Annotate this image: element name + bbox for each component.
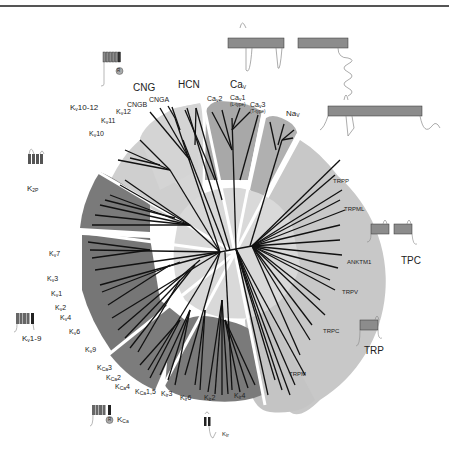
group-label-kv1-9: Kv1-9 (22, 335, 41, 343)
leaf-label-trpml: TRPML (344, 206, 364, 212)
leaf-label-trpp: TRPP (333, 178, 349, 184)
leaf-label-trpc: TRPC (323, 328, 339, 334)
topology-icon-nav (320, 95, 440, 136)
leaf-note-cav1: (L-type) (230, 103, 246, 108)
leaf-label-kca4: KCa4 (115, 383, 130, 391)
leaf-label-kca2: KCa2 (106, 374, 121, 382)
leaf-label-cav3: Cav3 (250, 101, 265, 109)
topology-icon-kir (204, 412, 216, 438)
leaf-note-cav3: (T-type) (250, 110, 266, 115)
leaf-label-kir6: Kir6 (180, 394, 191, 402)
group-label-trp: TRP (364, 346, 384, 356)
regulatory-domain-icon-kca: R (108, 418, 111, 423)
group-label-k2p: K2P (27, 185, 38, 193)
leaf-label-cav2: Cav2 (207, 95, 222, 103)
leaf-label-kv9: Kv9 (85, 346, 96, 354)
group-label-kir: Kir (222, 431, 229, 438)
leaf-label-anktm1: ANKTM1 (347, 259, 371, 265)
group-label-kv10-12: Kv10-12 (70, 104, 98, 112)
group-label-cav: CaV (230, 80, 246, 90)
leaf-label-cav1: Cav1 (230, 94, 245, 102)
leaf-label-trpm: TRPM (289, 371, 306, 377)
leaf-label-kir4: Kir4 (234, 392, 245, 400)
topology-icon-kv1-9 (14, 313, 34, 332)
leaf-label-kv7: Kv7 (49, 250, 60, 258)
group-label-hcn: HCN (178, 80, 200, 90)
group-label-nav: NaV (286, 110, 300, 118)
leaf-label-kv10: Kv10 (89, 130, 104, 138)
leaf-label-kv3: Kv3 (47, 275, 58, 283)
topology-icon-k2p (28, 149, 44, 164)
topology-icon-kca (90, 405, 113, 426)
group-label-tpc: TPC (401, 256, 421, 266)
leaf-label-cnga: CNGA (149, 96, 169, 103)
leaf-label-kv6: Kv6 (69, 328, 80, 336)
leaf-label-kca15: KCa1,5 (135, 388, 156, 396)
leaf-label-kir3: Kir3 (161, 390, 172, 398)
regulatory-domain-icon-kv10-12: R (117, 69, 120, 74)
leaf-label-kir2: Kir2 (204, 394, 215, 402)
group-label-cng: CNG (133, 83, 155, 93)
leaf-label-kv4: Kv4 (60, 314, 71, 322)
leaf-label-trpv: TRPV (342, 289, 358, 295)
leaf-label-kv1: Kv1 (51, 290, 62, 298)
leaf-label-cngb: CNGB (127, 101, 147, 108)
group-label-kca: KCa (117, 416, 129, 424)
leaf-label-kv11: Kv11 (101, 117, 115, 125)
leaf-label-kv12: Kv12 (116, 108, 131, 116)
leaf-label-kv2: Kv2 (55, 304, 66, 312)
leaf-label-kca3: KCa3 (97, 364, 112, 372)
topology-icon-cav (228, 23, 352, 96)
phylogenetic-tree-diagram (0, 0, 449, 457)
